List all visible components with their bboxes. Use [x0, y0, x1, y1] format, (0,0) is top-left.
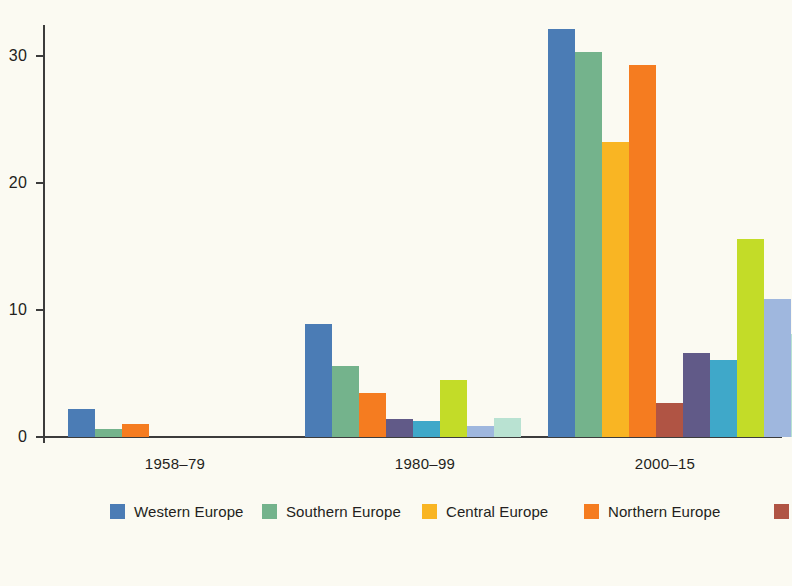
bar	[332, 366, 359, 437]
legend-swatch-icon	[262, 504, 277, 519]
legend-swatch-icon	[774, 504, 789, 519]
bar	[494, 418, 521, 437]
legend-item[interactable]: Western Balkans	[774, 503, 792, 520]
bar	[359, 393, 386, 437]
bar	[737, 239, 764, 437]
bar	[467, 426, 494, 437]
bar	[764, 299, 791, 437]
bar-chart: 0102030 1958–791980–992000–15 Western Eu…	[0, 0, 792, 586]
bar	[386, 419, 413, 437]
legend-item[interactable]: Western Europe	[110, 503, 262, 520]
legend-swatch-icon	[584, 504, 599, 519]
legend-label: Western Europe	[134, 503, 244, 520]
bar	[548, 29, 575, 437]
legend-label: Northern Europe	[608, 503, 720, 520]
legend: Western EuropeSouthern EuropeCentral Eur…	[110, 498, 782, 524]
legend-item[interactable]: Northern Europe	[584, 503, 774, 520]
bar	[602, 142, 629, 437]
legend-label: Central Europe	[446, 503, 548, 520]
bar	[68, 409, 95, 437]
bar	[95, 429, 122, 437]
bar	[629, 65, 656, 437]
bars-layer	[0, 0, 792, 470]
bar	[122, 424, 149, 437]
legend-swatch-icon	[110, 504, 125, 519]
plot-area: 0102030 1958–791980–992000–15	[0, 0, 792, 470]
bar	[656, 403, 683, 437]
bar	[710, 360, 737, 437]
legend-item[interactable]: Central Europe	[422, 503, 584, 520]
bar	[413, 421, 440, 437]
bar	[683, 353, 710, 437]
bar	[440, 380, 467, 437]
legend-swatch-icon	[422, 504, 437, 519]
bar	[575, 52, 602, 437]
legend-label: Southern Europe	[286, 503, 401, 520]
bar	[305, 324, 332, 437]
legend-item[interactable]: Southern Europe	[262, 503, 422, 520]
